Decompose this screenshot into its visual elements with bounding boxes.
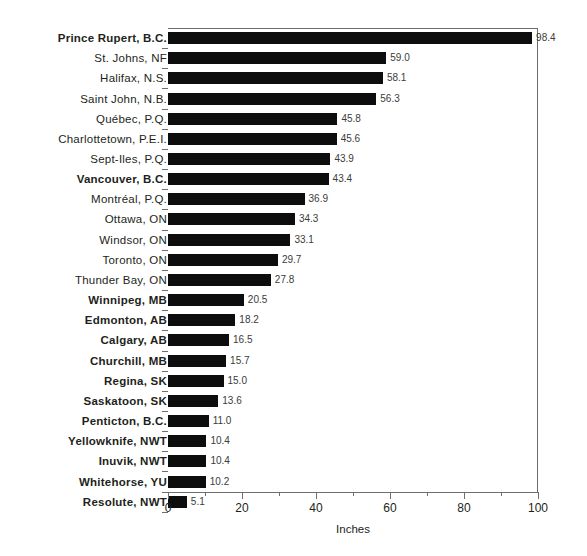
bar-row: Halifax, N.S.58.1	[0, 68, 587, 88]
bar-value-label: 20.5	[248, 295, 267, 305]
category-label: Yellowknife, NWT	[68, 435, 167, 447]
bar-group: 13.6	[168, 395, 242, 407]
bar-value-label: 43.4	[333, 174, 352, 184]
bar-group: 45.6	[168, 133, 360, 145]
category-label: Whitehorse, YU	[79, 476, 167, 488]
bar-row: Edmonton, AB18.2	[0, 310, 587, 330]
bar	[168, 52, 386, 64]
bar	[168, 455, 206, 467]
category-label: Saint John, N.B.	[80, 93, 167, 105]
bar-row: Penticton, B.C.11.0	[0, 411, 587, 431]
bar-row: Inuvik, NWT10.4	[0, 451, 587, 471]
category-label: Windsor, ON	[99, 234, 167, 246]
bar-row: Charlottetown, P.E.I.45.6	[0, 129, 587, 149]
bar-rows: Prince Rupert, B.C.98.4St. Johns, NF59.0…	[0, 28, 587, 512]
bar-value-label: 29.7	[282, 255, 301, 265]
bar-row: Saskatoon, SK13.6	[0, 391, 587, 411]
bar	[168, 32, 532, 44]
bar-group: 34.3	[168, 213, 318, 225]
x-axis-tick-label: 0	[165, 501, 172, 515]
x-axis-minor-tick	[427, 492, 428, 496]
bar-value-label: 10.4	[210, 436, 229, 446]
bar-row: Prince Rupert, B.C.98.4	[0, 28, 587, 48]
category-label: Montréal, P.Q.	[91, 193, 167, 205]
bar	[168, 173, 329, 185]
bar-value-label: 15.7	[230, 356, 249, 366]
category-label: Inuvik, NWT	[99, 455, 167, 467]
bar-value-label: 13.6	[222, 396, 241, 406]
bar	[168, 213, 295, 225]
bar	[168, 193, 305, 205]
bar-group: 27.8	[168, 274, 294, 286]
bar-group: 36.9	[168, 193, 328, 205]
bar	[168, 72, 383, 84]
category-label: Ottawa, ON	[105, 213, 167, 225]
bar-row: Montréal, P.Q.36.9	[0, 189, 587, 209]
bar-row: Thunder Bay, ON27.8	[0, 270, 587, 290]
bar-value-label: 16.5	[233, 335, 252, 345]
x-axis-tick-label: 20	[235, 501, 248, 515]
x-axis-title: Inches	[168, 523, 538, 535]
bar-row: Saint John, N.B.56.3	[0, 88, 587, 108]
bar-value-label: 15.0	[228, 376, 247, 386]
x-axis-major-tick	[242, 492, 243, 499]
bar-group: 56.3	[168, 93, 400, 105]
category-label: St. Johns, NF	[94, 52, 167, 64]
bar	[168, 294, 244, 306]
bar-group: 10.2	[168, 476, 229, 488]
category-label: Thunder Bay, ON	[75, 274, 167, 286]
bar-group: 58.1	[168, 72, 406, 84]
bar	[168, 435, 206, 447]
bar-row: Yellowknife, NWT10.4	[0, 431, 587, 451]
x-axis-minor-tick	[501, 492, 502, 496]
bar-row: Winnipeg, MB20.5	[0, 290, 587, 310]
bar	[168, 113, 337, 125]
bar-value-label: 36.9	[309, 194, 328, 204]
bar-group: 33.1	[168, 234, 314, 246]
bar-chart: Prince Rupert, B.C.98.4St. Johns, NF59.0…	[0, 0, 587, 556]
bar-row: Calgary, AB16.5	[0, 330, 587, 350]
bar	[168, 93, 376, 105]
bar-value-label: 59.0	[390, 53, 409, 63]
category-label: Sept-Iles, P.Q.	[90, 153, 167, 165]
x-axis-tick-label: 40	[309, 501, 322, 515]
bar	[168, 415, 209, 427]
bar-value-label: 45.8	[341, 114, 360, 124]
x-axis-major-tick	[464, 492, 465, 499]
x-axis-minor-tick	[205, 492, 206, 496]
category-label: Toronto, ON	[102, 254, 167, 266]
bar-value-label: 98.4	[536, 33, 555, 43]
bar	[168, 395, 218, 407]
category-label: Edmonton, AB	[85, 314, 167, 326]
bar-value-label: 45.6	[341, 134, 360, 144]
bar-value-label: 43.9	[334, 154, 353, 164]
bar	[168, 234, 290, 246]
bar-row: Churchill, MB15.7	[0, 351, 587, 371]
bar-group: 10.4	[168, 455, 230, 467]
bar-group: 45.8	[168, 113, 361, 125]
category-label: Charlottetown, P.E.I.	[58, 133, 167, 145]
bar-group: 18.2	[168, 314, 259, 326]
bar-value-label: 56.3	[380, 94, 399, 104]
bar-row: Whitehorse, YU10.2	[0, 471, 587, 491]
bar	[168, 254, 278, 266]
bar	[168, 153, 330, 165]
category-label: Saskatoon, SK	[83, 395, 167, 407]
bar-row: Sept-Iles, P.Q.43.9	[0, 149, 587, 169]
x-axis-minor-tick	[353, 492, 354, 496]
bar-row: St. Johns, NF59.0	[0, 48, 587, 68]
bar	[168, 476, 206, 488]
bar-row: Windsor, ON33.1	[0, 230, 587, 250]
bar-group: 15.0	[168, 375, 247, 387]
bar-row: Toronto, ON29.7	[0, 250, 587, 270]
bar-row: Québec, P.Q.45.8	[0, 109, 587, 129]
x-axis-major-tick	[390, 492, 391, 499]
category-label: Halifax, N.S.	[100, 72, 167, 84]
bar-group: 43.4	[168, 173, 352, 185]
bar-value-label: 10.2	[210, 477, 229, 487]
bar-group: 10.4	[168, 435, 230, 447]
x-axis: Inches 020406080100	[168, 492, 538, 552]
bar	[168, 375, 224, 387]
bar-value-label: 11.0	[213, 416, 232, 426]
x-axis-tick-label: 60	[383, 501, 396, 515]
